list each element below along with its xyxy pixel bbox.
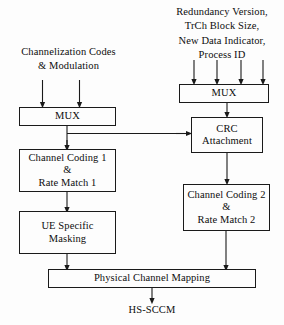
label-left-input-line-1: Channelization Codes [0,45,137,59]
node-ue-specific-masking-line-2: Masking [49,233,86,245]
node-crc-attachment[interactable]: CRC Attachment [191,117,263,153]
node-channel-coding-2-line-3: Rate Match 2 [198,214,256,226]
node-crc-attachment-line-1: CRC [216,123,237,135]
node-channel-coding-2-line-2: & [222,201,230,213]
node-channel-coding-1-line-3: Rate Match 1 [39,177,97,189]
node-mux-left-label: MUX [55,110,80,122]
label-right-input: Redundancy Version, TrCh Block Size, New… [162,5,282,62]
node-crc-attachment-line-2: Attachment [202,135,252,147]
node-physical-channel-mapping-label: Physical Channel Mapping [94,272,210,284]
node-channel-coding-1[interactable]: Channel Coding 1 & Rate Match 1 [19,149,116,192]
node-mux-right-label: MUX [212,87,237,99]
node-channel-coding-2[interactable]: Channel Coding 2 & Rate Match 2 [183,184,270,231]
node-channel-coding-2-line-1: Channel Coding 2 [187,189,265,201]
node-mux-left[interactable]: MUX [19,107,116,126]
diagram-canvas: Channelization Codes & Modulation Redund… [0,0,284,325]
label-right-input-line-2: TrCh Block Size, [162,19,282,33]
node-channel-coding-1-line-2: & [63,164,71,176]
node-physical-channel-mapping[interactable]: Physical Channel Mapping [48,269,256,288]
label-right-input-line-1: Redundancy Version, [162,5,282,19]
node-mux-right[interactable]: MUX [179,84,269,103]
label-right-input-line-4: Process ID [162,48,282,62]
node-ue-specific-masking-line-1: UE Specific [41,220,93,232]
label-left-input-line-2: & Modulation [0,59,137,73]
node-channel-coding-1-line-1: Channel Coding 1 [28,152,106,164]
label-right-input-line-3: New Data Indicator, [162,34,282,48]
label-left-input: Channelization Codes & Modulation [0,45,137,74]
node-ue-specific-masking[interactable]: UE Specific Masking [19,211,116,254]
output-label-hs-sccm: HS-SCCM [102,303,202,317]
output-label-text: HS-SCCM [102,303,202,317]
